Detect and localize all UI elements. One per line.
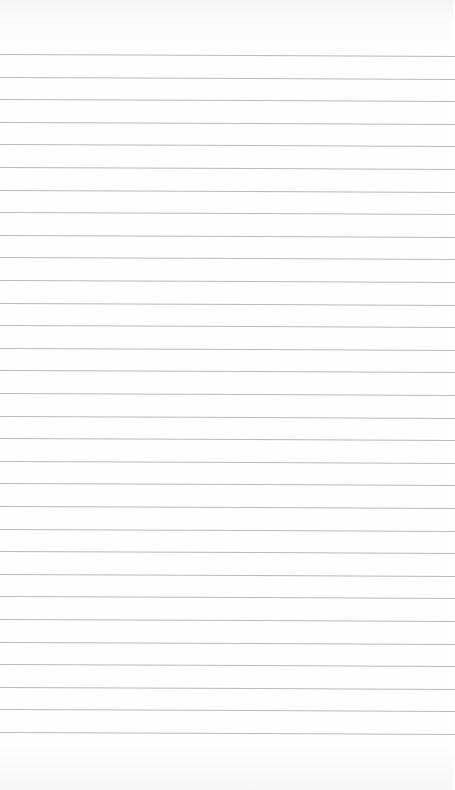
ruled-line <box>0 619 455 622</box>
ruled-line <box>0 732 455 735</box>
ruled-line <box>0 54 455 57</box>
ruled-line <box>0 551 455 554</box>
ruled-line <box>0 574 455 577</box>
ruled-line <box>0 235 455 238</box>
ruled-line <box>0 190 455 193</box>
ruled-line <box>0 687 455 690</box>
ruled-line <box>0 416 455 419</box>
ruled-line <box>0 393 455 396</box>
ruled-line <box>0 144 455 147</box>
ruled-line <box>0 99 455 102</box>
ruled-line <box>0 167 455 170</box>
ruled-line <box>0 122 455 125</box>
ruled-line <box>0 709 455 712</box>
ruled-line <box>0 77 455 80</box>
ruled-line <box>0 596 455 599</box>
ruled-line <box>0 212 455 215</box>
ruled-line <box>0 370 455 373</box>
ruled-line <box>0 483 455 486</box>
ruled-line <box>0 506 455 509</box>
ruled-line <box>0 280 455 283</box>
ruled-line <box>0 461 455 464</box>
ruled-line <box>0 257 455 260</box>
ruled-line <box>0 348 455 351</box>
ruled-line <box>0 642 455 645</box>
ruled-line <box>0 303 455 306</box>
ruled-line <box>0 664 455 667</box>
ruled-line <box>0 438 455 441</box>
ruled-line <box>0 325 455 328</box>
ruled-line <box>0 529 455 532</box>
